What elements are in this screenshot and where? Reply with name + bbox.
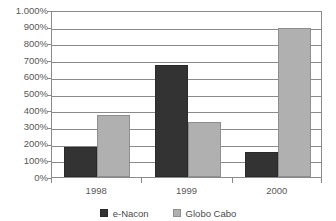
- x-axis-tick-mark: [321, 178, 322, 183]
- bar-chart: 0%100%200%300%400%500%600%700%800%900%1.…: [0, 0, 336, 221]
- y-axis-tick-label: 1.000%: [16, 6, 48, 16]
- bar-1999-globo-cabo: [188, 122, 221, 177]
- y-axis-tick-label: 800%: [24, 39, 48, 49]
- y-axis-tick-mark: [47, 78, 51, 79]
- x-axis-tick-mark: [232, 178, 233, 183]
- legend-swatch-icon: [173, 209, 181, 217]
- x-axis-tick-label-2000: 2000: [232, 185, 322, 196]
- y-axis-tick-mark: [47, 44, 51, 45]
- x-axis: 199819992000: [51, 178, 322, 202]
- y-axis-tick-mark: [47, 111, 51, 112]
- legend-label: e-Nacon: [113, 208, 149, 219]
- legend-item-e-nacon: e-Nacon: [100, 208, 149, 219]
- y-axis: 0%100%200%300%400%500%600%700%800%900%1.…: [0, 0, 48, 221]
- y-axis-tick-label: 400%: [24, 106, 48, 116]
- y-axis-tick-label: 700%: [24, 56, 48, 66]
- x-axis-tick-label-1998: 1998: [51, 185, 141, 196]
- bar-1998-e-nacon: [64, 147, 97, 177]
- y-axis-tick-mark: [47, 11, 51, 12]
- y-axis-tick-mark: [47, 128, 51, 129]
- y-axis-tick-label: 200%: [24, 139, 48, 149]
- x-axis-tick-label-1999: 1999: [141, 185, 231, 196]
- y-axis-tick-mark: [47, 28, 51, 29]
- legend-swatch-icon: [100, 209, 108, 217]
- y-axis-tick-mark: [47, 95, 51, 96]
- y-axis-tick-label: 500%: [24, 89, 48, 99]
- bar-1999-e-nacon: [155, 65, 188, 177]
- y-axis-tick-label: 300%: [24, 122, 48, 132]
- y-axis-tick-mark: [47, 145, 51, 146]
- bar-2000-globo-cabo: [278, 28, 311, 177]
- chart-legend: e-NaconGlobo Cabo: [0, 205, 336, 221]
- legend-label: Globo Cabo: [186, 208, 237, 219]
- y-axis-tick-label: 900%: [24, 22, 48, 32]
- x-axis-tick-mark: [51, 178, 52, 183]
- legend-item-globo-cabo: Globo Cabo: [173, 208, 237, 219]
- y-axis-tick-mark: [47, 161, 51, 162]
- x-axis-tick-mark: [141, 178, 142, 183]
- bar-1998-globo-cabo: [97, 115, 130, 177]
- y-axis-tick-label: 600%: [24, 72, 48, 82]
- y-axis-tick-label: 100%: [24, 156, 48, 166]
- y-axis-tick-mark: [47, 61, 51, 62]
- bar-2000-e-nacon: [245, 152, 278, 177]
- plot-area: [51, 11, 322, 178]
- y-axis-tick-label: 0%: [34, 173, 48, 183]
